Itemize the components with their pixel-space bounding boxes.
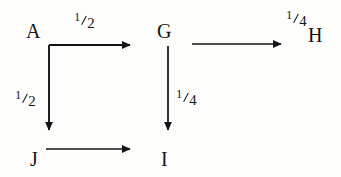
fraction-slash xyxy=(22,94,28,103)
node-label-i: I xyxy=(161,149,168,169)
fraction-one-half: 12 xyxy=(15,88,36,107)
node-label-h: H xyxy=(308,25,322,45)
fraction-one-half: 12 xyxy=(74,10,95,29)
diagram-canvas: A G H J I 12 12 14 14 xyxy=(0,0,341,177)
fraction-slash xyxy=(293,14,299,23)
node-label-g: G xyxy=(157,21,171,41)
edge-label-a-right: 12 xyxy=(74,10,95,29)
node-label-j: J xyxy=(30,149,38,169)
node-label-a: A xyxy=(26,21,40,41)
fraction-one-quarter: 14 xyxy=(286,8,307,27)
edge-label-g-down: 14 xyxy=(176,87,197,106)
fraction-one-quarter: 14 xyxy=(176,87,197,106)
edge-label-g-right: 14 xyxy=(286,8,307,27)
fraction-slash xyxy=(183,93,189,102)
edge-label-a-down: 12 xyxy=(15,88,36,107)
fraction-slash xyxy=(81,16,87,25)
